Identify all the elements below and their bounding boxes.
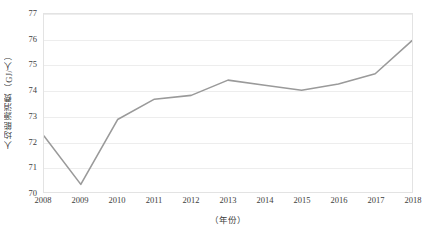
y-tick-label: 73	[29, 112, 38, 121]
y-tick-label: 72	[29, 137, 38, 146]
series-line	[44, 14, 412, 192]
y-tick-label: 77	[29, 9, 38, 18]
y-tick-label: 75	[29, 60, 38, 69]
line-chart: 人均能源消费（GJ/人） 7071727374757677 2008200920…	[0, 0, 424, 236]
y-tick-label: 76	[29, 34, 38, 43]
x-tick-label: 2011	[146, 196, 163, 205]
x-axis-tick-labels: 2008200920102011201220132014201520162017…	[43, 196, 413, 212]
y-tick-label: 71	[29, 163, 38, 172]
series-polyline	[44, 41, 412, 185]
x-axis-title: （年份）	[43, 213, 413, 225]
x-tick-label: 2018	[405, 196, 422, 205]
x-tick-label: 2010	[109, 196, 126, 205]
y-axis-title-label: 人均能源消费（GJ/人）	[3, 51, 15, 149]
y-axis-title: 人均能源消费（GJ/人）	[0, 0, 18, 200]
x-tick-label: 2016	[331, 196, 348, 205]
plot-area	[43, 13, 413, 193]
y-axis-tick-labels: 7071727374757677	[18, 13, 40, 193]
x-tick-label: 2013	[220, 196, 237, 205]
x-tick-label: 2014	[257, 196, 274, 205]
x-tick-label: 2017	[368, 196, 385, 205]
x-tick-label: 2008	[35, 196, 52, 205]
x-tick-label: 2015	[294, 196, 311, 205]
x-tick-label: 2012	[183, 196, 200, 205]
y-tick-label: 74	[29, 86, 38, 95]
x-tick-label: 2009	[72, 196, 89, 205]
